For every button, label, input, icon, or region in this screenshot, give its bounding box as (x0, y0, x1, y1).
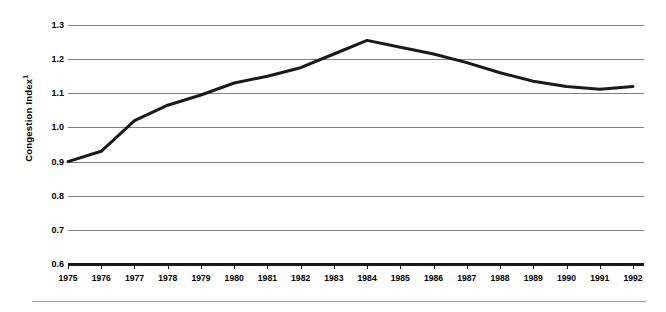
x-axis-tick-mark (68, 264, 69, 269)
x-axis-tick-mark (168, 264, 169, 269)
x-axis-tick-label: 1992 (613, 274, 653, 283)
x-axis-tick-mark (467, 264, 468, 269)
x-axis-tick-mark (600, 264, 601, 269)
x-axis-tick-mark (267, 264, 268, 269)
x-axis-tick-mark (101, 264, 102, 269)
y-axis-tick-label: 1.3 (24, 21, 64, 30)
x-axis-tick-mark (134, 264, 135, 269)
x-axis-tick-mark (334, 264, 335, 269)
y-axis-tick-label: 0.7 (24, 226, 64, 235)
x-axis-tick-mark (500, 264, 501, 269)
y-axis-tick-label: 0.8 (24, 192, 64, 201)
series-polyline (68, 40, 633, 161)
plot-area (68, 25, 644, 264)
x-axis-tick-mark (567, 264, 568, 269)
x-axis-tick-labels: 1975197619771978197919801981198219831984… (68, 274, 666, 290)
x-axis-tick-marks (68, 264, 648, 272)
y-axis-tick-label: 0.6 (24, 260, 64, 269)
x-axis-tick-mark (533, 264, 534, 269)
y-axis-tick-labels: 1.31.21.11.00.90.80.70.6 (20, 0, 64, 312)
x-axis-tick-mark (400, 264, 401, 269)
y-axis-tick-label: 0.9 (24, 158, 64, 167)
x-axis-tick-mark (201, 264, 202, 269)
congestion-index-line-chart: Congestion Index1 1.31.21.11.00.90.80.70… (0, 0, 666, 312)
x-axis-tick-mark (301, 264, 302, 269)
x-axis-tick-mark (367, 264, 368, 269)
y-axis-tick-label: 1.0 (24, 123, 64, 132)
x-axis-tick-mark (434, 264, 435, 269)
x-axis-tick-mark (633, 264, 634, 269)
y-axis-tick-label: 1.1 (24, 89, 64, 98)
x-axis-tick-mark (234, 264, 235, 269)
series-line-congestion-index (68, 25, 644, 264)
y-axis-tick-label: 1.2 (24, 55, 64, 64)
footer-divider (32, 301, 646, 302)
